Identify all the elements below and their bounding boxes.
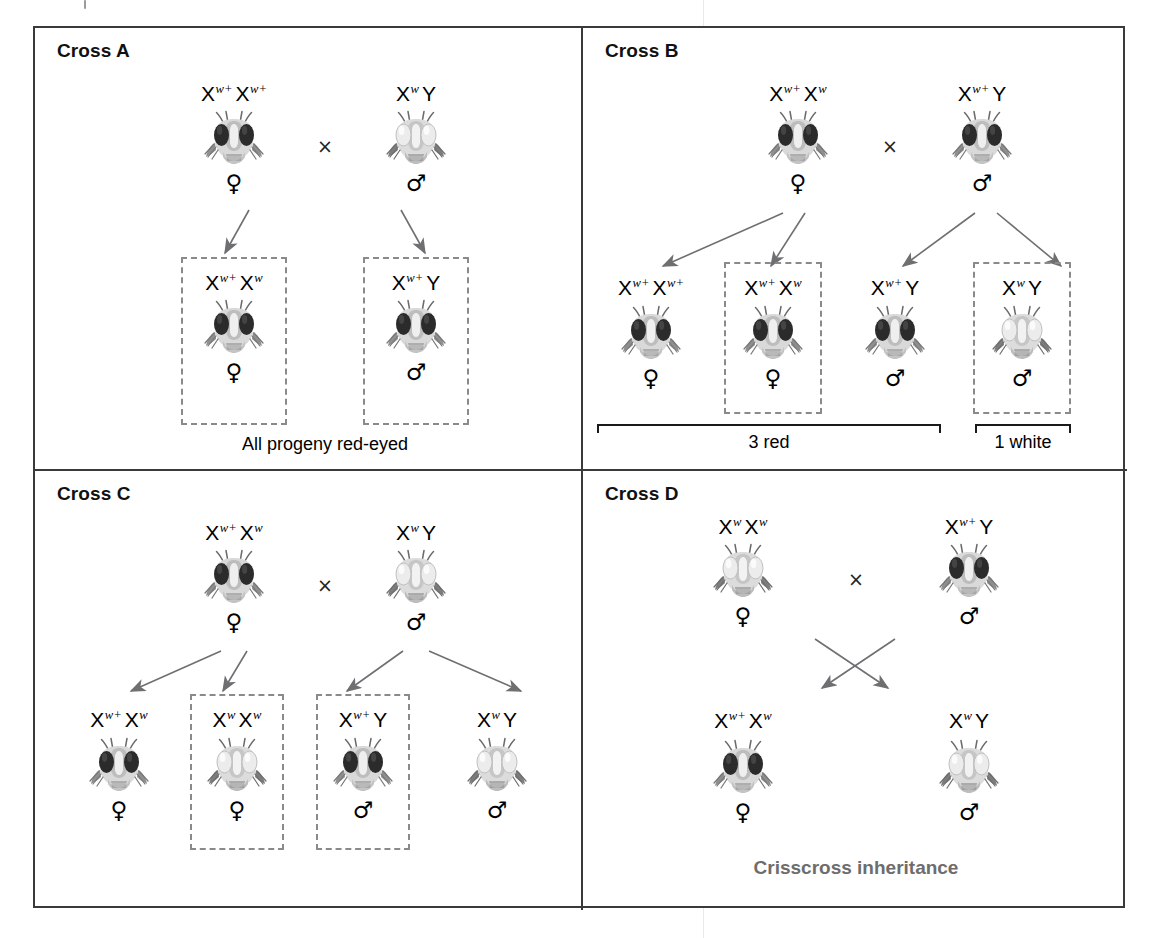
sex-symbol-male: ♂ bbox=[972, 172, 993, 195]
sex-symbol-female: ♀ bbox=[735, 605, 752, 628]
offspring-genotype-1: Xw+Xw bbox=[205, 271, 262, 295]
offspring-genotype-2: XwXw bbox=[213, 708, 262, 732]
fly-head-red-male bbox=[858, 305, 932, 365]
inheritance-arrows bbox=[35, 28, 581, 469]
sex-symbol-female: ♀ bbox=[226, 611, 243, 634]
panel-caption-cross-a: All progeny red-eyed bbox=[242, 434, 408, 455]
parent-genotype-male: Xw+Y bbox=[945, 515, 993, 539]
fly-head-red-male bbox=[326, 737, 400, 797]
parent-genotype-female: XwXw bbox=[719, 515, 768, 539]
inheritance-arrows bbox=[35, 471, 581, 912]
panel-cross-b: Cross B Xw+Xw ♀ × Xw+Y ♂ Xw+Xw+ ♀ Xw+Xw bbox=[581, 28, 1127, 469]
ratio-label-white: 1 white bbox=[994, 432, 1051, 453]
sex-symbol-female: ♀ bbox=[226, 361, 243, 384]
fly-head-white-female bbox=[200, 737, 274, 797]
sex-symbol-female: ♀ bbox=[790, 172, 807, 195]
panel-title-cross-d: Cross D bbox=[605, 483, 679, 505]
fly-head-red-female bbox=[197, 110, 271, 170]
sex-symbol-female: ♀ bbox=[735, 801, 752, 824]
fly-head-red-female bbox=[197, 299, 271, 359]
sex-symbol-male: ♂ bbox=[406, 172, 427, 195]
sex-symbol-male: ♂ bbox=[353, 799, 374, 822]
fly-head-red-female bbox=[706, 739, 780, 799]
offspring-genotype-2: XwY bbox=[949, 709, 989, 733]
crisscross-arrows bbox=[583, 471, 1129, 912]
sex-symbol-female: ♀ bbox=[229, 799, 246, 822]
cross-multiply-symbol: × bbox=[848, 568, 864, 590]
fly-head-red-male bbox=[379, 299, 453, 359]
parent-genotype-female: Xw+Xw bbox=[205, 521, 262, 545]
panel-title-cross-b: Cross B bbox=[605, 40, 679, 62]
fly-head-red-female bbox=[197, 549, 271, 609]
ratio-label-red: 3 red bbox=[748, 432, 789, 453]
panel-cross-c: Cross C Xw+Xw ♀ × XwY ♂ Xw+Xw ♀ XwXw bbox=[35, 469, 581, 910]
sex-symbol-male: ♂ bbox=[406, 361, 427, 384]
panel-cross-d: Cross D XwXw ♀ × Xw+Y ♂ Xw+Xw ♀ XwY ♂ Cr… bbox=[581, 469, 1127, 910]
fly-head-white-male bbox=[460, 737, 534, 797]
offspring-genotype-2: Xw+Y bbox=[392, 271, 440, 295]
fly-head-white-male bbox=[932, 739, 1006, 799]
parent-genotype-male: Xw+Y bbox=[958, 82, 1006, 106]
offspring-genotype-1: Xw+Xw bbox=[90, 708, 147, 732]
panel-cross-a: Cross A Xw+Xw+ ♀ × XwY ♂ Xw+Xw ♀ Xw+Y bbox=[35, 28, 581, 469]
sex-symbol-male: ♂ bbox=[959, 801, 980, 824]
sex-symbol-male: ♂ bbox=[406, 611, 427, 634]
fly-head-white-male bbox=[985, 305, 1059, 365]
fly-head-white-male bbox=[379, 549, 453, 609]
sex-symbol-male: ♂ bbox=[1012, 367, 1033, 390]
sex-symbol-female: ♀ bbox=[111, 799, 128, 822]
fly-head-red-female bbox=[82, 737, 156, 797]
fly-head-red-male bbox=[945, 110, 1019, 170]
sex-symbol-male: ♂ bbox=[959, 605, 980, 628]
parent-genotype-male: XwY bbox=[396, 82, 436, 106]
fly-head-red-male bbox=[932, 543, 1006, 603]
cross-multiply-symbol: × bbox=[882, 135, 898, 157]
parent-genotype-female: Xw+Xw+ bbox=[201, 82, 267, 106]
panel-title-cross-a: Cross A bbox=[57, 40, 130, 62]
offspring-genotype-1: Xw+Xw+ bbox=[618, 276, 684, 300]
parent-genotype-male: XwY bbox=[396, 521, 436, 545]
offspring-genotype-3: Xw+Y bbox=[871, 276, 919, 300]
panel-caption-cross-d: Crisscross inheritance bbox=[754, 857, 959, 879]
sex-symbol-female: ♀ bbox=[226, 172, 243, 195]
parent-genotype-female: Xw+Xw bbox=[769, 82, 826, 106]
offspring-genotype-3: Xw+Y bbox=[339, 708, 387, 732]
fly-head-white-female bbox=[706, 543, 780, 603]
fly-head-red-female bbox=[761, 110, 835, 170]
offspring-genotype-4: XwY bbox=[477, 708, 517, 732]
sex-symbol-female: ♀ bbox=[765, 367, 782, 390]
offspring-genotype-2: Xw+Xw bbox=[744, 276, 801, 300]
fly-head-white-male bbox=[379, 110, 453, 170]
offspring-genotype-1: Xw+Xw bbox=[714, 709, 771, 733]
scan-speck-artifact bbox=[84, 0, 86, 9]
cross-multiply-symbol: × bbox=[317, 135, 333, 157]
offspring-genotype-4: XwY bbox=[1002, 276, 1042, 300]
cross-multiply-symbol: × bbox=[317, 574, 333, 596]
figure-frame: Cross A Xw+Xw+ ♀ × XwY ♂ Xw+Xw ♀ Xw+Y bbox=[33, 26, 1125, 908]
sex-symbol-female: ♀ bbox=[643, 367, 660, 390]
fly-head-red-female bbox=[614, 305, 688, 365]
sex-symbol-male: ♂ bbox=[885, 367, 906, 390]
fly-head-red-female bbox=[736, 305, 810, 365]
panel-title-cross-c: Cross C bbox=[57, 483, 131, 505]
sex-symbol-male: ♂ bbox=[487, 799, 508, 822]
